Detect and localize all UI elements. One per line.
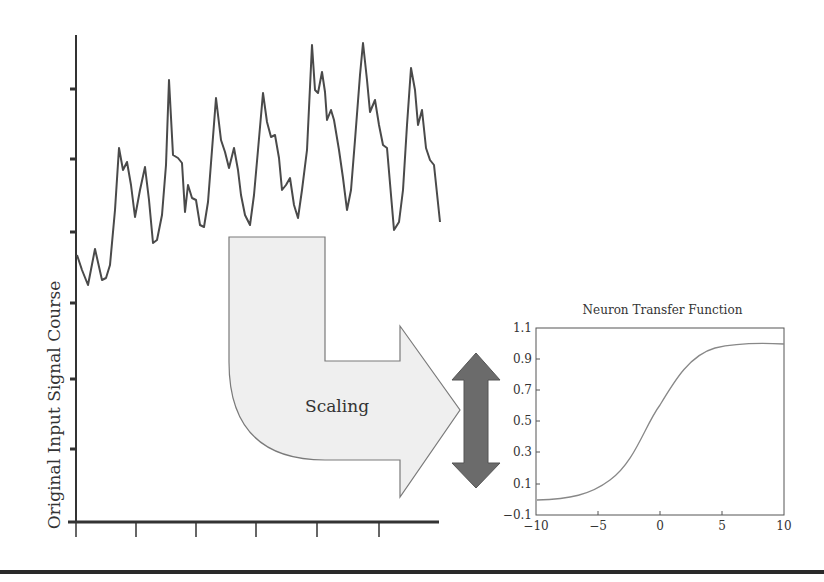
- transfer-function-title: Neuron Transfer Function: [540, 303, 785, 317]
- tf-y-tick: 0.5: [498, 414, 532, 428]
- tf-y-tick: 0.3: [498, 445, 532, 459]
- diagram-canvas: [0, 0, 824, 582]
- tf-y-tick: 0.7: [498, 383, 532, 397]
- scaling-arrow: [229, 237, 460, 497]
- double-arrow-icon: [452, 353, 500, 488]
- scaling-label: Scaling: [305, 396, 369, 416]
- tf-y-tick: 0.1: [498, 477, 532, 491]
- tf-x-tick: −5: [583, 519, 613, 533]
- tf-x-tick: 5: [707, 519, 737, 533]
- bottom-rule-divider: [0, 570, 824, 574]
- signal-x-ticks: [76, 522, 379, 537]
- tf-y-tick: 1.1: [498, 321, 532, 335]
- transfer-function-frame: [536, 328, 784, 515]
- tf-x-tick: 0: [645, 519, 675, 533]
- tf-x-tick: 10: [769, 519, 799, 533]
- signal-y-axis-label: Original Input Signal Course: [44, 255, 74, 555]
- tf-x-tick: −10: [521, 519, 551, 533]
- tf-y-tick: 0.9: [498, 352, 532, 366]
